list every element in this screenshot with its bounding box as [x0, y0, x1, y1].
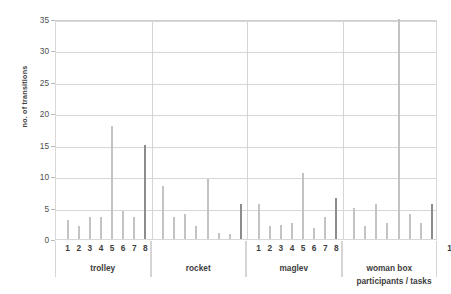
group-separator [343, 21, 344, 239]
group-label: woman box [342, 258, 438, 277]
bar [431, 204, 433, 239]
x-axis-group-band: trolleyrocketmaglevwoman box [55, 258, 437, 277]
x-tick-group-cell: 12345678 [246, 241, 342, 258]
bar [111, 126, 113, 239]
group-label: trolley [55, 258, 151, 277]
bar [78, 226, 80, 239]
group-separator [152, 21, 153, 239]
bar [258, 204, 260, 239]
x-tick-label: 1 [445, 244, 451, 252]
bar [375, 204, 377, 239]
y-tick-label: 25 [19, 79, 49, 87]
y-tick-label: 30 [19, 47, 49, 55]
group-label: maglev [246, 258, 342, 277]
bar [195, 226, 197, 239]
bar [302, 173, 304, 239]
plot-area [55, 20, 437, 240]
bar [133, 217, 135, 239]
bar [229, 234, 231, 239]
bar [89, 217, 91, 239]
y-tick-label: 10 [19, 173, 49, 181]
bar [207, 179, 209, 239]
bar [269, 226, 271, 239]
group-separator [247, 21, 248, 239]
gridline [56, 84, 436, 85]
bar-chart-figure: no. of transitions 05101520253035 123456… [0, 0, 451, 294]
x-tick-label: 7 [129, 244, 139, 252]
bar [144, 145, 146, 239]
y-tick-label: 0 [19, 236, 49, 244]
y-tick-label: 15 [19, 142, 49, 150]
x-tick-label: 2 [74, 244, 84, 252]
x-tick-label: 8 [140, 244, 150, 252]
bar [386, 223, 388, 239]
bar [409, 214, 411, 239]
bar [420, 223, 422, 239]
x-tick-label: 6 [118, 244, 128, 252]
bar [122, 211, 124, 239]
bar [364, 226, 366, 239]
bar [218, 233, 220, 239]
x-tick-group-cell: 12345678 [342, 241, 438, 258]
x-tick-label: 1 [63, 244, 73, 252]
y-tick-label: 5 [19, 205, 49, 213]
x-tick-group-cell: 12345678 [55, 241, 151, 258]
bar [335, 198, 337, 239]
bar [353, 208, 355, 239]
gridline [56, 52, 436, 53]
bar [398, 19, 400, 239]
gridline [56, 21, 436, 22]
bar [184, 214, 186, 239]
bar [67, 220, 69, 239]
x-axis-tick-band: 12345678123456781234567812345678 [55, 241, 437, 258]
gridline [56, 115, 436, 116]
bar [291, 223, 293, 239]
bar [100, 217, 102, 239]
x-tick-label: 3 [85, 244, 95, 252]
x-axis-title: participants / tasks [344, 276, 444, 286]
y-tick-label: 35 [19, 16, 49, 24]
bar [313, 228, 315, 239]
bar [173, 217, 175, 239]
x-tick-group-cell: 12345678 [151, 241, 247, 258]
bar [162, 186, 164, 239]
bar [280, 225, 282, 239]
y-tick-label: 20 [19, 110, 49, 118]
bar [324, 217, 326, 239]
x-tick-label: 4 [96, 244, 106, 252]
bar [240, 204, 242, 239]
group-label: rocket [151, 258, 247, 277]
x-tick-label: 5 [107, 244, 117, 252]
